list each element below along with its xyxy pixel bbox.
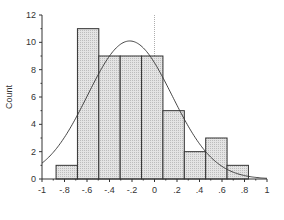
x-tick-label: .6 [218, 185, 226, 195]
x-tick-label: -.6 [82, 185, 93, 195]
histogram-bars [56, 29, 248, 179]
y-tick-label: 12 [26, 10, 36, 20]
y-axis-title: Count [4, 85, 14, 110]
y-tick-label: 0 [31, 174, 36, 184]
x-tick-label: -1 [38, 185, 46, 195]
x-tick-label: .2 [173, 185, 181, 195]
x-tick-label: 0 [152, 185, 157, 195]
histogram-chart: 024681012 -1-.8-.6-.4-.20.2.4.6.81 Count [0, 0, 284, 220]
y-axis: 024681012 [26, 10, 42, 184]
x-tick-label: -.2 [127, 185, 138, 195]
x-axis: -1-.8-.6-.4-.20.2.4.6.81 [38, 179, 270, 195]
histogram-bar [142, 56, 163, 179]
x-tick-label: -.8 [59, 185, 70, 195]
histogram-bar [206, 138, 227, 179]
x-tick-label: .4 [196, 185, 204, 195]
y-tick-label: 4 [31, 119, 36, 129]
y-tick-label: 10 [26, 37, 36, 47]
x-tick-label: .8 [241, 185, 249, 195]
x-tick-label: 1 [264, 185, 269, 195]
histogram-bar [184, 152, 205, 179]
histogram-bar [120, 56, 141, 179]
histogram-bar [56, 165, 77, 179]
histogram-bar [99, 56, 120, 179]
histogram-bar [77, 29, 98, 179]
y-tick-label: 2 [31, 147, 36, 157]
histogram-bar [163, 111, 184, 179]
y-tick-label: 8 [31, 65, 36, 75]
histogram-bar [227, 165, 248, 179]
x-tick-label: -.4 [104, 185, 115, 195]
y-tick-label: 6 [31, 92, 36, 102]
